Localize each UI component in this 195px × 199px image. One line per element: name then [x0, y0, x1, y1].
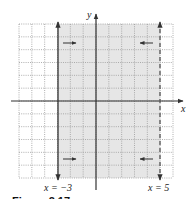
x-axis-label: x — [180, 103, 186, 114]
y-axis-label: y — [86, 9, 92, 20]
figure-caption: Figure 2.17 — [12, 195, 70, 199]
right-line-label: x = 5 — [147, 182, 169, 193]
left-line-label: x = −3 — [43, 182, 72, 193]
graph-figure: y x x = −3 x = 5 Figure 2.17 — [0, 0, 195, 199]
